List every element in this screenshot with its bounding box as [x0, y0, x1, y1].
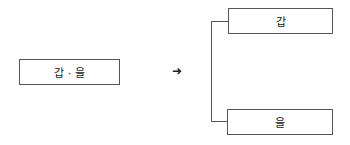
right-arrow-icon: ➜: [172, 64, 184, 78]
target-box-top: 갑: [228, 8, 333, 34]
target-box-bottom: 을: [227, 109, 333, 135]
connector-top-line: [211, 21, 228, 22]
connector-vertical-line: [211, 21, 212, 122]
source-box: 갑 · 을: [19, 59, 120, 85]
target-box-bottom-label: 을: [275, 114, 285, 130]
source-box-label: 갑 · 을: [54, 64, 85, 80]
target-box-top-label: 갑: [276, 13, 286, 29]
connector-bottom-line: [211, 121, 228, 122]
